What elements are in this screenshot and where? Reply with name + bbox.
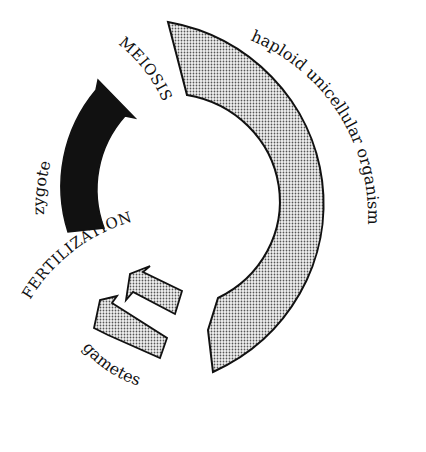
meiosis-label: MEIOSIS	[115, 33, 175, 104]
gamete-arrow-lower	[94, 296, 167, 358]
gamete-arrow-upper	[126, 266, 182, 314]
zygote-label: zygote	[29, 158, 55, 215]
life-cycle-diagram: MEIOSIS haploid unicellular organism zyg…	[0, 0, 426, 452]
zygote-arrow	[61, 80, 135, 232]
